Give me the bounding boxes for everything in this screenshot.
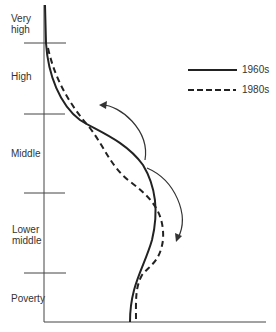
arrow-to-lower-middle bbox=[147, 168, 182, 238]
diagram-canvas bbox=[0, 0, 276, 332]
arrowhead-icon bbox=[99, 101, 107, 109]
curve-1960s bbox=[45, 5, 156, 322]
curve-1980s bbox=[48, 48, 163, 322]
arrowhead-icon bbox=[175, 233, 182, 242]
arrow-to-high bbox=[102, 105, 146, 160]
